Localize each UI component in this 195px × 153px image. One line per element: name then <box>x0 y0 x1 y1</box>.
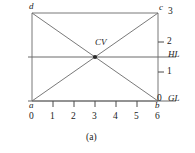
center-of-vision-marker <box>93 55 97 59</box>
corner-label-d: d <box>29 2 34 11</box>
figure-caption: (a) <box>86 133 97 143</box>
vertical-scale-value-0: 0 <box>157 94 162 104</box>
corner-label-c: c <box>159 3 163 12</box>
horizontal-scale-value-2: 2 <box>71 112 76 122</box>
perspective-diagram-figure: d c a b CV HL GL 3 2 1 0 0 1 2 3 4 5 6 (… <box>0 0 195 153</box>
diagram-canvas <box>0 0 195 153</box>
horizontal-scale-value-4: 4 <box>113 112 118 122</box>
horizontal-scale-value-6: 6 <box>155 112 160 122</box>
horizon-line-label: HL <box>168 50 180 59</box>
horizontal-scale-ticks <box>53 101 137 107</box>
horizontal-scale-value-1: 1 <box>50 112 55 122</box>
vertical-scale-value-2: 2 <box>167 37 172 47</box>
horizontal-scale-value-3: 3 <box>92 112 97 122</box>
vertical-scale-value-1: 1 <box>167 67 172 77</box>
ground-line-label: GL <box>168 94 180 103</box>
horizontal-scale-value-0: 0 <box>29 112 34 122</box>
corner-label-a: a <box>29 101 34 110</box>
horizontal-scale-value-5: 5 <box>134 112 139 122</box>
center-of-vision-label: CV <box>95 38 107 47</box>
vertical-scale-value-3: 3 <box>168 7 173 17</box>
